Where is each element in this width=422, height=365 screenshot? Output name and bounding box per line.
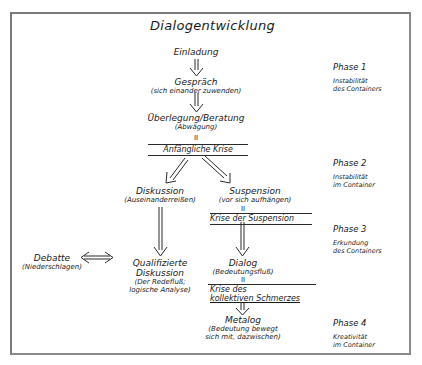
phase-3-desc: Erkundung des Containers <box>333 240 382 255</box>
crisis-line-bottom <box>210 224 312 225</box>
node-qualifizierte-sub2: logische Analyse) <box>118 286 202 294</box>
crisis-line-bottom <box>148 155 248 156</box>
phase-2: Phase 2 Instabilität im Container <box>333 158 375 189</box>
crisis-marker: II <box>238 276 248 284</box>
node-qualifizierte-label2: Diskussion <box>118 268 202 278</box>
phase-1-desc: Instabilität des Containers <box>333 78 382 93</box>
phase-3: Phase 3 Erkundung des Containers <box>333 224 382 255</box>
crisis-suspension: Krise der Suspension <box>210 214 312 223</box>
node-debatte-label: Debatte <box>20 253 84 263</box>
phase-3-title: Phase 3 <box>333 224 382 234</box>
crisis-marker: II <box>191 134 201 142</box>
phase-1-desc-line2: des Containers <box>333 86 382 94</box>
node-qualifizierte-label1: Qualifizierte <box>118 258 202 268</box>
phase-4-desc: Kreativität im Container <box>333 334 375 349</box>
node-ueberlegung-label: Überlegung/Beratung <box>136 113 256 123</box>
phase-2-desc: Instabilität im Container <box>333 174 375 189</box>
node-diskussion-label: Diskussion <box>110 186 210 196</box>
node-gespraech: Gespräch (sich einander zuwenden) <box>136 77 256 95</box>
phase-2-desc-line2: im Container <box>333 182 375 190</box>
phase-4-title: Phase 4 <box>333 318 375 328</box>
node-metalog-sub1: (Bedeutung bewegt <box>196 325 290 333</box>
phase-2-title: Phase 2 <box>333 158 375 168</box>
node-suspension-label: Suspension <box>205 186 305 196</box>
crisis-marker: II <box>238 205 248 213</box>
node-dialog-sub: (Bedeutungsfluß) <box>200 268 286 276</box>
crisis-kollektiv: Krise des kollektiven Schmerzes <box>210 285 316 303</box>
phase-1-title: Phase 1 <box>333 62 382 72</box>
node-metalog-label: Metalog <box>196 315 290 325</box>
node-diskussion-sub: (Auseinanderreißen) <box>110 196 210 204</box>
node-gespraech-sub: (sich einander zuwenden) <box>136 87 256 95</box>
phase-4-desc-line2: im Container <box>333 342 375 350</box>
node-debatte: Debatte (Niederschlagen) <box>20 253 84 271</box>
node-dialog-label: Dialog <box>200 258 286 268</box>
node-suspension-sub: (vor sich aufhängen) <box>205 196 305 204</box>
phase-3-desc-line2: des Containers <box>333 248 382 256</box>
crisis-kollektiv-line1: Krise des <box>210 285 316 294</box>
phase-1: Phase 1 Instabilität des Containers <box>333 62 382 93</box>
node-metalog-sub2: sich mit, dazwischen) <box>196 333 290 341</box>
phase-4: Phase 4 Kreativität im Container <box>333 318 375 349</box>
node-qualifizierte: Qualifizierte Diskussion (Der Redefluß; … <box>118 258 202 294</box>
node-ueberlegung-sub: (Abwägung) <box>136 123 256 131</box>
node-qualifizierte-sub1: (Der Redefluß; <box>118 278 202 286</box>
crisis-kollektiv-line2: kollektiven Schmerzes <box>210 294 316 303</box>
crisis-anfaengliche: Anfängliche Krise <box>148 145 248 154</box>
node-gespraech-label: Gespräch <box>136 77 256 87</box>
node-debatte-sub: (Niederschlagen) <box>20 263 84 271</box>
node-ueberlegung: Überlegung/Beratung (Abwägung) <box>136 113 256 131</box>
node-diskussion: Diskussion (Auseinanderreißen) <box>110 186 210 204</box>
node-dialog: Dialog (Bedeutungsfluß) <box>200 258 286 276</box>
node-suspension: Suspension (vor sich aufhängen) <box>205 186 305 204</box>
node-metalog: Metalog (Bedeutung bewegt sich mit, dazw… <box>196 315 290 341</box>
node-einladung: Einladung <box>156 47 236 57</box>
